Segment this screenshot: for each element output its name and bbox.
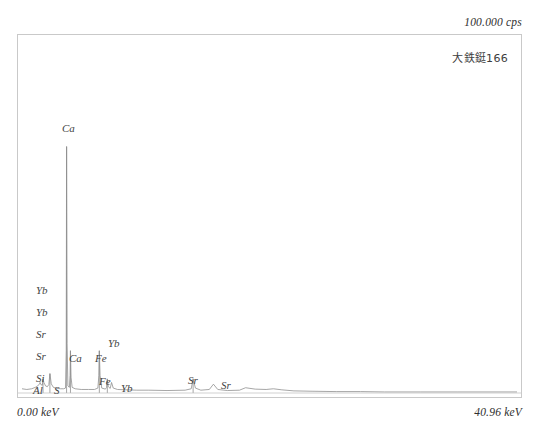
sample-name-label: 大鉄鋌166 [452,49,508,65]
peak-label-si: Si [36,373,45,384]
intensity-scale-label: 100.000 cps [464,16,522,28]
peak-label-fe: Fe [99,376,111,387]
peak-label-s: S [54,385,60,396]
peak-label-sr: Sr [188,375,198,386]
peak-label-yb: Yb [108,338,120,349]
peak-label-sr: Sr [36,351,46,362]
spectrum-plot-area: CaYbYbSrSrSiAlSCaFeYbFeYbSrSr [18,35,521,397]
peak-label-sr: Sr [36,329,46,340]
peak-label-ca: Ca [69,353,82,364]
peak-label-sr: Sr [221,380,231,391]
spectrum-trace [18,35,521,397]
peak-label-yb: Yb [36,285,48,296]
peak-label-al: Al [33,385,43,396]
peak-label-ca: Ca [62,123,75,134]
spectrum-viewer: 100.000 cps CaYbYbSrSrSiAlSCaFeYbFeYbSrS… [0,0,540,430]
x-axis-min-label: 0.00 keV [17,406,59,418]
peak-label-yb: Yb [121,383,133,394]
spectrum-plot-frame[interactable]: CaYbYbSrSrSiAlSCaFeYbFeYbSrSr [17,34,522,398]
peak-label-yb: Yb [36,307,48,318]
peak-label-fe: Fe [95,353,107,364]
x-axis-max-label: 40.96 keV [474,406,522,418]
